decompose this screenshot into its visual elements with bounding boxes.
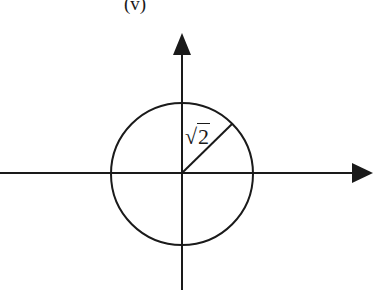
x-axis-arrowhead-icon bbox=[352, 163, 373, 183]
part-label: (v) bbox=[124, 0, 146, 15]
radius-label: √2 bbox=[185, 126, 210, 148]
sqrt-icon: √ bbox=[185, 124, 197, 149]
radius-value: 2 bbox=[197, 123, 210, 149]
y-axis-arrowhead-icon bbox=[173, 33, 191, 55]
